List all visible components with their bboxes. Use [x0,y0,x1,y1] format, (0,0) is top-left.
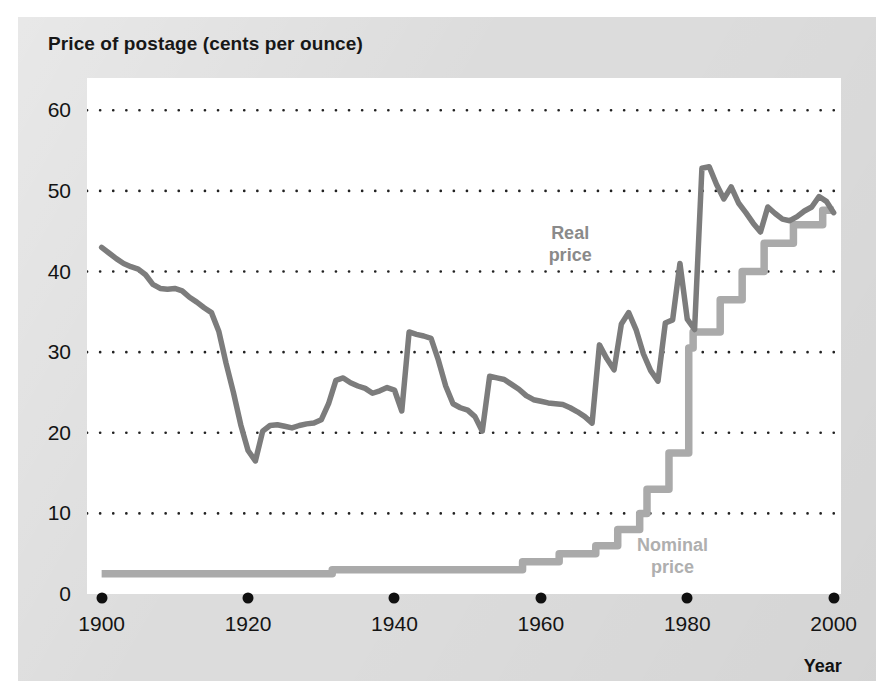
x-tick-label: 1980 [642,612,732,636]
y-tick-label: 10 [11,501,71,525]
y-tick-label: 40 [11,260,71,284]
y-tick-label: 20 [11,421,71,445]
x-axis-title: Year [804,656,842,677]
x-tick-label: 2000 [789,612,879,636]
x-tick-label: 1900 [57,612,147,636]
y-tick-label: 50 [11,179,71,203]
series-label-real-price: Real price [530,223,610,267]
x-tick-label: 1940 [349,612,439,636]
x-tick-dot [828,593,839,604]
plot-area [87,78,841,594]
x-tick-dot [389,593,400,604]
nominal-price-line [102,210,834,574]
gridlines [87,110,841,513]
x-tick-dot [535,593,546,604]
y-tick-label: 0 [11,582,71,606]
x-tick-label: 1920 [203,612,293,636]
series-label-nominal-price: Nominal price [618,535,728,579]
y-tick-label: 60 [11,98,71,122]
plot-svg [87,78,841,594]
x-tick-label: 1960 [496,612,586,636]
y-tick-label: 30 [11,340,71,364]
chart-title: Price of postage (cents per ounce) [48,33,363,55]
x-tick-dot [243,593,254,604]
x-tick-dot [96,593,107,604]
postage-price-chart-figure: Price of postage (cents per ounce) 01020… [0,0,894,698]
x-tick-dot [682,593,693,604]
